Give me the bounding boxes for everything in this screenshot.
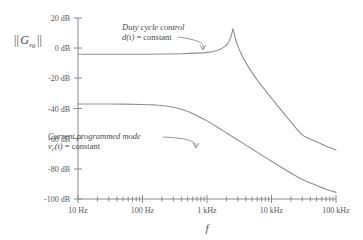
y-tick-label-minus80: -80 dB [48,165,70,174]
y-tick-label-minus20: -20 dB [48,74,70,83]
ylabel-symbol: G [20,33,29,47]
x-tick-label-10hz: 10 Hz [68,206,88,215]
duty-cycle-annotation-line1: Duty cycle control [121,22,185,32]
x-axis-title: f [205,222,210,234]
x-tick-label-100khz: 100 kHz [322,206,350,215]
duty-cycle-annotation: Duty cycle control d(t) = constant [121,22,206,50]
current-mode-leader-line [163,137,196,147]
current-mode-annotation: Current programmed mode vc(t) = constant [48,131,199,152]
svg-text:||Gvg||: ||Gvg|| [14,33,42,49]
y-tick-label-20: 20 dB [51,14,70,23]
current-mode-annotation-line2: vc(t) = constant [48,141,101,152]
ylabel-subscript: vg [29,41,36,49]
x-tick-label-100hz: 100 Hz [131,206,155,215]
y-axis-title: ||Gvg|| [14,33,42,49]
y-tick-label-minus100: -100 dB [44,195,70,204]
y-tick-label-0: 0 dB [55,44,70,53]
x-tick-label-10khz: 10 kHz [260,206,284,215]
current-mode-annotation-line1: Current programmed mode [48,131,141,141]
bode-magnitude-plot: 20 dB 0 dB -20 dB -40 dB -60 dB -80 dB -… [0,0,363,240]
curve-current-programmed-mode [78,104,336,192]
x-tick-label-1khz: 1 kHz [197,206,217,215]
ylabel-bars-left: || [14,33,19,47]
y-tick-label-minus40: -40 dB [48,105,70,114]
ylabel-bars-right: || [37,33,42,47]
duty-cycle-leader-line [178,37,203,49]
duty-cycle-annotation-line2: d(t) = constant [122,32,172,42]
plot-canvas: 20 dB 0 dB -20 dB -40 dB -60 dB -80 dB -… [0,0,363,240]
